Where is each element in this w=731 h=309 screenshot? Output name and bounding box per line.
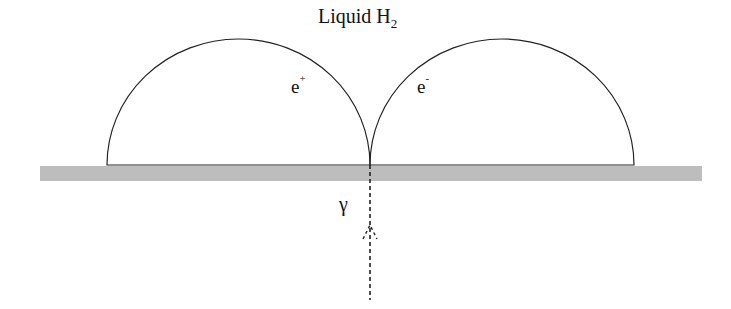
- photon-label: γ: [339, 193, 348, 216]
- diagram-canvas: [0, 0, 731, 309]
- positron-label: e+: [291, 76, 306, 98]
- substrate-bar: [40, 166, 702, 181]
- positron-track-arc: [107, 39, 370, 165]
- electron-label: e-: [417, 76, 429, 98]
- diagram-title: Liquid H2: [318, 5, 397, 32]
- electron-track-arc: [370, 39, 634, 165]
